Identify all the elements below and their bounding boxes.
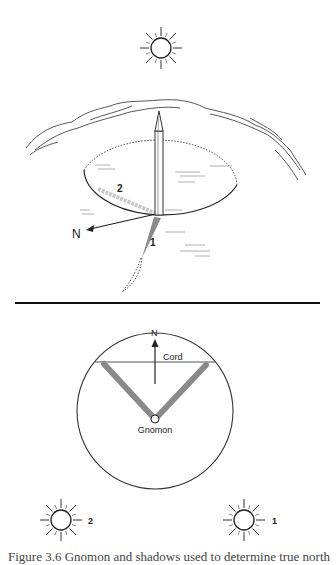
top-panel: 2 1 N	[26, 27, 306, 292]
north-arrowhead-icon	[152, 339, 159, 347]
shadow-1-extension	[122, 258, 142, 292]
gnomon-label: Gnomon	[138, 425, 173, 435]
shadow-right	[157, 365, 206, 417]
figure-caption: Figure 3.6 Gnomon and shadows used to de…	[8, 549, 330, 565]
gnomon-base	[151, 415, 159, 423]
north-arrow	[90, 214, 156, 229]
sun-right-icon	[223, 499, 265, 541]
north-label: N	[151, 328, 158, 338]
north-arrowhead-icon	[86, 225, 94, 232]
cord-label: Cord	[163, 352, 183, 362]
sun-left-label: 2	[88, 516, 93, 526]
north-label: N	[72, 227, 81, 241]
shadow-left	[104, 364, 153, 417]
gnomon	[155, 111, 163, 215]
sun-icon	[140, 27, 182, 69]
bottom-panel: Cord N Gnomon 2 1	[40, 328, 277, 541]
shadow-2-label: 2	[117, 183, 123, 194]
shadow-1-label: 1	[150, 237, 156, 248]
sun-right-label: 1	[272, 516, 277, 526]
sun-left-icon	[40, 499, 82, 541]
